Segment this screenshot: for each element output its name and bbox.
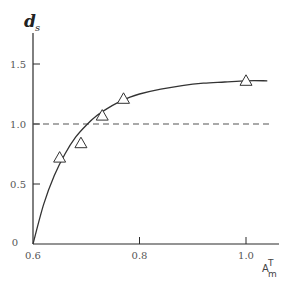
fitted-curve: [33, 81, 267, 244]
y-tick-label: 0: [12, 237, 18, 248]
svg-text:m: m: [268, 269, 277, 279]
data-markers: [54, 75, 252, 162]
x-tick-label: 1.0: [238, 250, 254, 261]
y-tick-label: 0.5: [10, 179, 26, 190]
y-axis-label: d s: [24, 11, 40, 33]
x-tick-label: 0.8: [132, 250, 148, 261]
svg-text:T: T: [267, 258, 274, 268]
x-ticks: 0.60.81.0: [25, 237, 254, 261]
triangle-marker-icon: [75, 137, 87, 148]
svg-text:s: s: [35, 22, 40, 33]
triangle-marker-icon: [240, 75, 252, 86]
x-tick-label: 0.6: [25, 250, 41, 261]
chart: d s 00.51.01.5 0.60.81.0 A T m: [0, 0, 287, 291]
y-tick-label: 1.0: [10, 119, 26, 130]
y-tick-label: 1.5: [10, 59, 26, 70]
x-axis-label: A T m: [262, 258, 277, 279]
y-ticks: 00.51.01.5: [10, 59, 40, 248]
